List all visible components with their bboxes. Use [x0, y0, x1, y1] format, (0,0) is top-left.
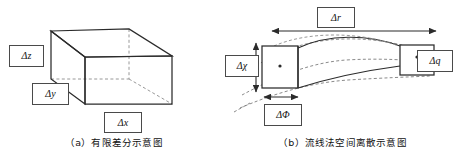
caption-panel-a: （a）有限差分示意图 — [0, 135, 228, 149]
box-visible-edges — [51, 29, 172, 104]
label-delta-chi: Δχ — [225, 55, 259, 77]
label-delta-z: Δz — [9, 45, 44, 67]
panel-finite-difference: Δz Δy Δx （a）有限差分示意图 — [0, 0, 228, 159]
label-delta-y: Δy — [32, 83, 69, 105]
label-delta-q: Δq — [417, 50, 453, 72]
panel-streamline-discretization: Δr Δχ ΔΦ Δq （b）流线法空间离散示意图 — [228, 0, 457, 159]
label-delta-phi: ΔΦ — [264, 104, 302, 126]
label-delta-chi-text: Δχ — [237, 61, 247, 71]
inlet-node-dot — [278, 64, 281, 67]
label-delta-r-text: Δr — [331, 13, 341, 23]
label-delta-y-text: Δy — [45, 89, 55, 99]
label-delta-x: Δx — [104, 112, 142, 133]
label-delta-q-text: Δq — [430, 56, 441, 66]
label-delta-x-text: Δx — [118, 118, 128, 128]
figure-root: Δz Δy Δx （a）有限差分示意图 — [0, 0, 457, 159]
inlet-cell-face — [262, 46, 298, 88]
label-delta-r: Δr — [317, 7, 355, 28]
label-delta-phi-text: ΔΦ — [276, 110, 289, 120]
label-delta-z-text: Δz — [22, 51, 32, 61]
caption-panel-b: （b）流线法空间离散示意图 — [228, 135, 457, 149]
